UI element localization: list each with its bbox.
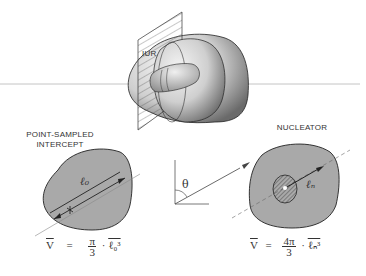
right-title: NUCLEATOR xyxy=(262,123,342,133)
formula-left-fraction: π 3 xyxy=(88,236,96,257)
formula-left-eq: = xyxy=(67,239,73,251)
formula-nucleator: V = 4π 3 · ℓₙ³ xyxy=(250,236,320,257)
formula-right-dot: · xyxy=(301,239,305,251)
point-sampled-profile xyxy=(35,149,140,236)
l0-label: ℓ₀ xyxy=(80,177,89,187)
left-title-line1: POINT-SAMPLED xyxy=(20,130,100,140)
formula-left-lhs: V xyxy=(46,239,54,251)
theta-label: θ xyxy=(182,180,189,190)
formula-right-term: ℓₙ³ xyxy=(308,239,321,251)
cell-3d-illustration xyxy=(128,12,248,130)
formula-right-eq: = xyxy=(266,239,272,251)
iur-label: IUR xyxy=(142,49,156,59)
nucleolus-point xyxy=(283,186,287,190)
formula-left-term: ℓ₀³ xyxy=(108,239,120,251)
formula-right-lhs: V xyxy=(250,239,258,251)
nucleator-profile xyxy=(232,144,350,228)
ln-label: ℓₙ xyxy=(306,180,315,190)
left-title-line2: INTERCEPT xyxy=(20,140,100,150)
formula-left-dot: · xyxy=(102,239,106,251)
formula-right-fraction: 4π 3 xyxy=(282,236,295,257)
formula-point-sampled: V = π 3 · ℓ₀³ xyxy=(46,236,121,257)
